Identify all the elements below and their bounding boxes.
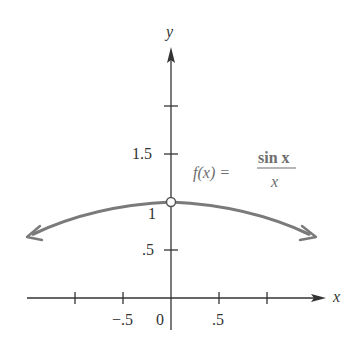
function-label-lhs: f(x) =	[193, 164, 230, 182]
x-tick-label: −.5	[112, 311, 133, 328]
x-tick-label: .5	[212, 311, 224, 328]
x-axis-label: x	[332, 288, 340, 305]
function-label-denominator: x	[270, 173, 278, 190]
function-label-numerator: sin x	[258, 149, 290, 166]
x-tick-label: 0	[156, 311, 164, 328]
y-tick-label: 1.5	[132, 145, 152, 162]
y-tick-label: 1	[148, 205, 156, 222]
y-tick-label: .5	[142, 241, 154, 258]
chart: −.5 0 .5 .5 1 1.5 x y f(x) = sin x x	[0, 0, 362, 362]
open-point-hole	[167, 198, 176, 207]
y-axis-label: y	[164, 23, 174, 41]
